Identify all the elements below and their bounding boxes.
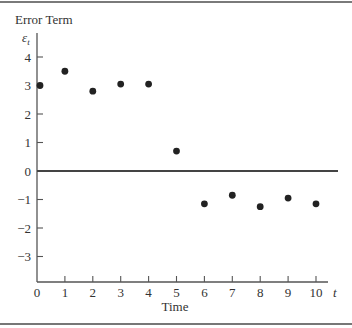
y-tick-label: 4 (25, 50, 32, 65)
y-tick-label: −3 (17, 249, 31, 264)
data-point (285, 195, 292, 202)
x-tick-label: 0 (34, 285, 41, 300)
y-axis-symbol: εt (22, 30, 30, 47)
x-axis-symbol: t (333, 285, 337, 300)
x-tick-label: 7 (229, 285, 236, 300)
y-tick-label: 3 (25, 78, 32, 93)
y-tick-label: 0 (25, 164, 32, 179)
data-point (89, 88, 96, 95)
x-tick-label: 2 (90, 285, 97, 300)
data-point (201, 200, 208, 207)
y-tick-label: −1 (17, 192, 31, 207)
y-tick-label: 1 (25, 135, 32, 150)
x-tick-label: 6 (201, 285, 208, 300)
x-tick-label: 4 (145, 285, 152, 300)
data-point (257, 203, 264, 210)
error-term-scatter-chart: Error Term εt 43210−1−2−3012345678910 t … (0, 0, 352, 328)
x-tick-label: 5 (173, 285, 180, 300)
data-point (229, 192, 236, 199)
axes (37, 33, 338, 282)
x-axis-label: Time (162, 299, 189, 314)
x-tick-label: 10 (310, 285, 323, 300)
data-point (37, 82, 44, 89)
x-tick-label: 9 (285, 285, 292, 300)
ticks: 43210−1−2−3012345678910 (17, 50, 322, 301)
data-point (173, 148, 180, 155)
y-tick-label: −2 (17, 221, 31, 236)
chart-title: Error Term (15, 12, 73, 27)
x-tick-label: 3 (117, 285, 124, 300)
data-point (62, 68, 69, 75)
y-tick-label: 2 (25, 107, 32, 122)
x-tick-label: 8 (257, 285, 264, 300)
data-points (37, 68, 320, 210)
x-tick-label: 1 (62, 285, 69, 300)
data-point (313, 200, 320, 207)
data-point (145, 81, 152, 88)
data-point (117, 81, 124, 88)
